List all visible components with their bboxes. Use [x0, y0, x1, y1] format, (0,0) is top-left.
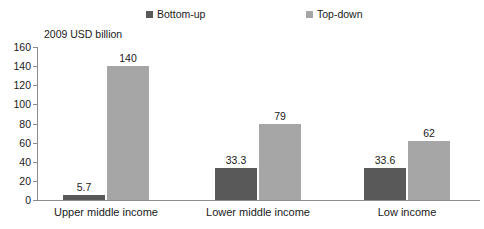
y-axis-tick — [33, 200, 37, 201]
bar-bottom-up[interactable] — [215, 168, 257, 200]
legend-label-top-down: Top-down — [317, 8, 363, 20]
legend-swatch-icon-bottom-up — [146, 11, 153, 18]
plot-area: 5.714033.37933.662 — [37, 44, 480, 201]
y-tick-label: 120 — [13, 80, 31, 91]
bar-top-down[interactable] — [107, 66, 149, 200]
bar-value-label: 62 — [408, 127, 450, 139]
y-axis-tick — [33, 162, 37, 163]
y-axis-tick — [33, 66, 37, 67]
y-tick-label: 80 — [19, 119, 31, 130]
y-axis-tick — [33, 143, 37, 144]
bar-value-label: 5.7 — [63, 181, 105, 193]
legend-swatch-icon-top-down — [306, 11, 313, 18]
y-tick-label: 160 — [13, 42, 31, 53]
y-axis-line — [37, 47, 38, 201]
bar-bottom-up[interactable] — [364, 168, 406, 200]
bar-top-down[interactable] — [259, 124, 301, 200]
legend-item-bottom-up[interactable]: Bottom-up — [146, 8, 205, 20]
y-tick-label: 0 — [25, 195, 31, 206]
y-tick-label: 40 — [19, 157, 31, 168]
x-category-label: Lower middle income — [206, 205, 310, 219]
y-tick-label: 60 — [19, 138, 31, 149]
bar-value-label: 33.6 — [364, 154, 406, 166]
x-category-label: Low income — [378, 205, 437, 219]
grouped-bar-chart: Bottom-up Top-down 2009 USD billion 1601… — [0, 0, 484, 229]
y-axis-tick — [33, 47, 37, 48]
legend-label-bottom-up: Bottom-up — [157, 8, 205, 20]
y-axis-tick — [33, 124, 37, 125]
legend-item-top-down[interactable]: Top-down — [306, 8, 363, 20]
y-axis-unit-label: 2009 USD billion — [44, 28, 122, 40]
y-tick-label: 20 — [19, 176, 31, 187]
chart-legend: Bottom-up Top-down — [0, 8, 484, 24]
y-axis-tick-labels: 160140120100806040200 — [0, 44, 31, 204]
y-axis-tick — [33, 104, 37, 105]
y-axis-tick — [33, 85, 37, 86]
y-axis-tick — [33, 181, 37, 182]
bar-bottom-up[interactable] — [63, 195, 105, 200]
x-category-label: Upper middle income — [54, 205, 158, 219]
y-tick-label: 140 — [13, 61, 31, 72]
bar-value-label: 79 — [259, 110, 301, 122]
bar-value-label: 140 — [107, 52, 149, 64]
x-axis-category-labels: Upper middle incomeLower middle incomeLo… — [37, 205, 480, 223]
y-tick-label: 100 — [13, 99, 31, 110]
x-axis-line — [37, 200, 480, 201]
bar-value-label: 33.3 — [215, 154, 257, 166]
bar-top-down[interactable] — [408, 141, 450, 200]
